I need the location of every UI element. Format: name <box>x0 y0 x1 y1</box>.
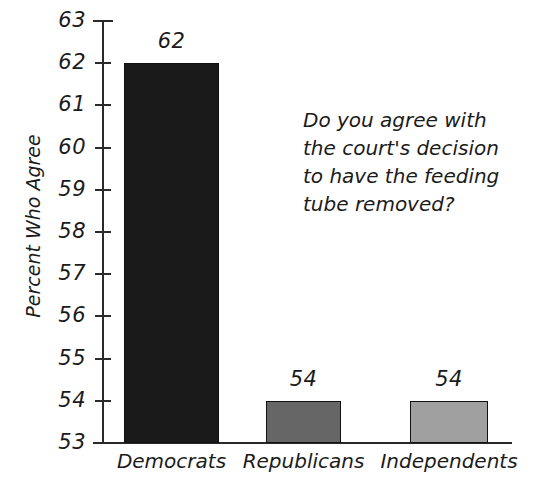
y-axis-tick-label-63: 63 <box>28 10 86 31</box>
y-axis-tick-label-61: 61 <box>28 94 86 115</box>
bar-republicans <box>266 401 341 443</box>
survey-question-annotation: Do you agree withthe court's decisionto … <box>303 106 527 218</box>
bar-value-label-independents: 54 <box>410 369 488 390</box>
category-label-republicans: Republicans <box>219 450 389 472</box>
bar-value-label-democrats: 62 <box>124 31 219 52</box>
y-axis-tick-label-53: 53 <box>28 432 86 453</box>
annotation-line: the court's decision <box>303 134 527 162</box>
y-axis-tick-label-58: 58 <box>28 221 86 242</box>
y-axis-tick-55 <box>95 358 111 360</box>
annotation-line: Do you agree with <box>303 106 527 134</box>
y-axis-tick-58 <box>95 231 111 233</box>
y-axis-tick-59 <box>95 189 111 191</box>
y-axis-tick-61 <box>95 104 111 106</box>
bar-value-label-republicans: 54 <box>266 369 341 390</box>
y-axis-tick-label-57: 57 <box>28 263 86 284</box>
y-axis-tick-53 <box>93 442 113 444</box>
y-axis-tick-label-56: 56 <box>28 305 86 326</box>
bar-independents <box>410 401 488 443</box>
y-axis-tick-label-59: 59 <box>28 179 86 200</box>
y-axis-tick-60 <box>95 147 111 149</box>
y-axis-tick-62 <box>95 62 111 64</box>
y-axis-tick-label-55: 55 <box>28 348 86 369</box>
plot-area: Percent Who Agree 6362616059585756555453… <box>0 0 539 493</box>
y-axis-tick-label-62: 62 <box>28 52 86 73</box>
y-axis-tick-63 <box>93 20 113 22</box>
y-axis-tick-label-54: 54 <box>28 390 86 411</box>
bar-chart: Percent Who Agree 6362616059585756555453… <box>0 0 539 493</box>
annotation-line: tube removed? <box>303 190 527 218</box>
category-label-independents: Independents <box>364 450 534 472</box>
y-axis-tick-57 <box>95 273 111 275</box>
y-axis-tick-56 <box>95 315 111 317</box>
y-axis-tick-label-60: 60 <box>28 137 86 158</box>
y-axis-tick-54 <box>95 400 111 402</box>
bar-democrats <box>124 63 219 443</box>
annotation-line: to have the feeding <box>303 162 527 190</box>
